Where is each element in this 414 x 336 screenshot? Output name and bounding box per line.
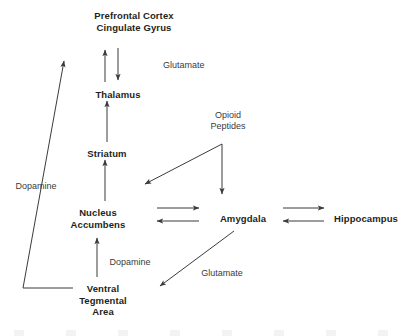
edge-label-opioid-peptides: Opioid Peptides xyxy=(210,110,245,132)
page-edge-artifact xyxy=(0,330,414,336)
diagram-connectors xyxy=(0,0,414,336)
node-hippocampus: Hippocampus xyxy=(334,213,398,225)
node-nucleus-accumbens: Nucleus Accumbens xyxy=(71,207,126,230)
edge-label-dopamine-vta-cortex: Dopamine xyxy=(15,181,56,192)
node-thalamus: Thalamus xyxy=(95,89,140,101)
edge-vta-to-cortex xyxy=(23,61,64,288)
node-striatum: Striatum xyxy=(87,148,126,160)
edge-opioid-to-accumbens xyxy=(145,144,222,184)
edge-label-glutamate-amygdala-vta: Glutamate xyxy=(201,268,243,279)
node-amygdala: Amygdala xyxy=(220,213,266,225)
node-ventral-tegmental-area: Ventral Tegmental Area xyxy=(79,283,127,318)
edge-label-glutamate-cortex-thalamus: Glutamate xyxy=(163,60,205,71)
node-prefrontal-cortex: Prefrontal Cortex Cingulate Gyrus xyxy=(94,10,173,33)
edge-label-dopamine-vta-accumbens: Dopamine xyxy=(109,257,150,268)
diagram-canvas: Prefrontal Cortex Cingulate Gyrus Thalam… xyxy=(0,0,414,336)
